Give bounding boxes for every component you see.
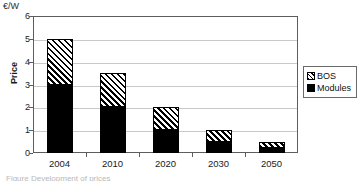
y-tick-label: 1 [16, 126, 30, 135]
bar-group [47, 39, 73, 153]
x-tick-label: 2020 [155, 158, 176, 169]
y-tick-mark [29, 130, 33, 131]
y-tick-label: 0 [16, 149, 30, 158]
bar-segment-modules [100, 107, 126, 153]
bar-segment-bos [206, 130, 232, 141]
legend-label-bos: BOS [317, 71, 336, 81]
x-tick-mark [86, 153, 87, 157]
y-tick-label: 4 [16, 57, 30, 66]
x-tick-mark [245, 153, 246, 157]
x-tick-mark [139, 153, 140, 157]
y-tick-mark [29, 153, 33, 154]
y-tick-mark [29, 85, 33, 86]
x-axis-tick-labels: 20042010202020302050 [33, 158, 298, 172]
y-tick-mark [29, 62, 33, 63]
y-tick-label: 5 [16, 34, 30, 43]
y-tick-label: 6 [16, 12, 30, 21]
chart-legend: BOS Modules [303, 66, 357, 98]
y-tick-mark [29, 39, 33, 40]
legend-item-modules: Modules [307, 82, 354, 94]
bars-layer [33, 16, 298, 153]
x-tick-label: 2050 [261, 158, 282, 169]
legend-item-bos: BOS [307, 70, 354, 82]
bar-group [206, 130, 232, 153]
legend-label-modules: Modules [317, 83, 351, 93]
figure-container: €/W Price 0123456 20042010202020302050 B… [0, 0, 360, 181]
figure-caption: Figure Development of prices [6, 174, 111, 181]
bar-group [259, 142, 285, 153]
bar-segment-modules [47, 85, 73, 154]
y-axis-tick-labels: 0123456 [16, 16, 30, 153]
legend-swatch-modules-icon [307, 84, 315, 92]
y-tick-mark [29, 16, 33, 17]
x-tick-label: 2010 [102, 158, 123, 169]
bar-group [153, 107, 179, 153]
y-tick-mark [29, 107, 33, 108]
bar-segment-bos [47, 39, 73, 85]
x-tick-label: 2030 [208, 158, 229, 169]
x-tick-label: 2004 [49, 158, 70, 169]
legend-swatch-bos-icon [307, 72, 315, 80]
bar-group [100, 73, 126, 153]
bar-segment-modules [259, 148, 285, 153]
y-axis-unit-label: €/W [3, 1, 19, 11]
y-tick-label: 3 [16, 80, 30, 89]
bar-segment-modules [206, 142, 232, 153]
bar-segment-modules [153, 130, 179, 153]
bar-segment-bos [153, 107, 179, 130]
bar-segment-bos [259, 142, 285, 148]
y-tick-label: 2 [16, 103, 30, 112]
bar-segment-bos [100, 73, 126, 107]
x-tick-mark [192, 153, 193, 157]
